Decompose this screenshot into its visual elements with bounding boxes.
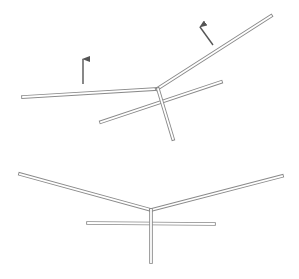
top-figure xyxy=(23,16,271,139)
motion-arrows xyxy=(83,27,213,84)
left-wing-bar-fill xyxy=(23,89,157,97)
bottom-figure xyxy=(20,174,282,262)
right-wing-bar-fill xyxy=(151,176,282,210)
diagram-canvas xyxy=(0,0,299,279)
right-arrow-icon xyxy=(200,27,213,45)
right-wing-bar-fill xyxy=(157,16,271,89)
left-wing-bar-fill xyxy=(20,174,151,210)
stem-bar-fill xyxy=(158,89,173,139)
